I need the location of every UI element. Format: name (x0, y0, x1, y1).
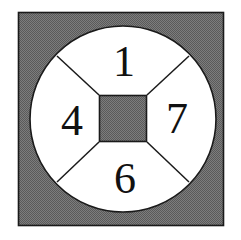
sector-wheel-diagram: 1476 (0, 0, 241, 240)
sector-right-label: 7 (166, 94, 188, 143)
sector-top-label: 1 (113, 37, 135, 86)
sector-bottom-label: 6 (114, 154, 136, 203)
sector-left-label: 4 (61, 96, 83, 145)
diagram-canvas: 1476 (0, 0, 241, 240)
gray-center-square (100, 96, 147, 142)
